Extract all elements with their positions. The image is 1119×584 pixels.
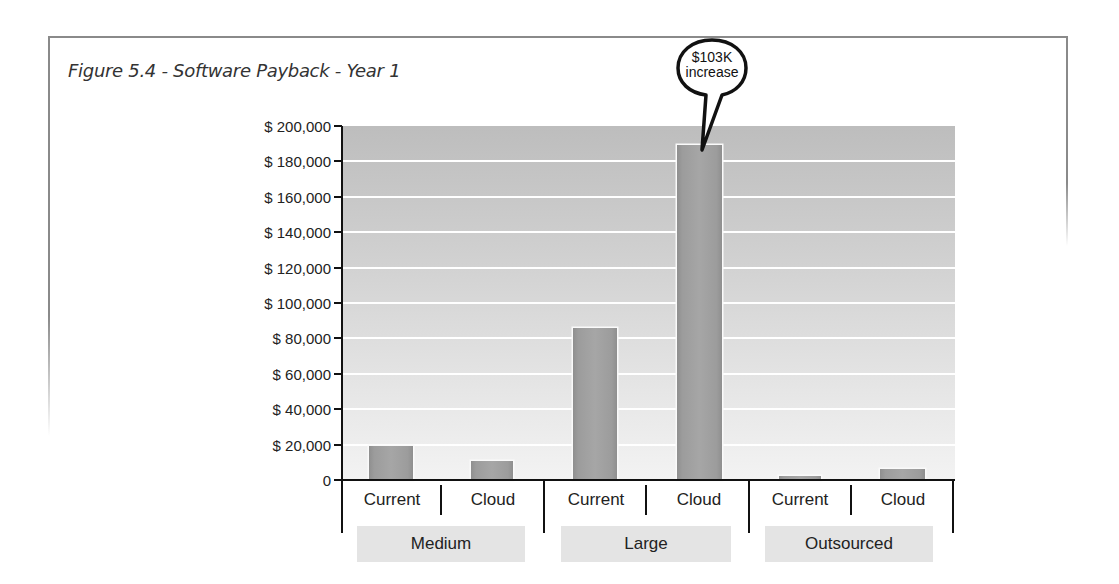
x-category-separator <box>850 485 852 515</box>
y-tick-label: $ 80,000 <box>273 330 331 347</box>
x-category-label: Current <box>551 490 641 510</box>
gridline <box>343 302 955 304</box>
y-tick-label: $ 20,000 <box>273 436 331 453</box>
y-tick-mark <box>334 302 342 304</box>
y-tick-mark <box>334 408 342 410</box>
y-tick-mark <box>334 267 342 269</box>
y-tick-mark <box>334 444 342 446</box>
gridline <box>343 267 955 269</box>
callout-line-2: increase <box>676 65 748 80</box>
x-group-label-outsourced: Outsourced <box>765 526 933 562</box>
y-tick-mark <box>334 373 342 375</box>
y-tick-label: $ 140,000 <box>264 224 331 241</box>
x-group-label-medium: Medium <box>357 526 525 562</box>
gridline <box>343 373 955 375</box>
gridline <box>343 408 955 410</box>
bar-medium-cloud <box>471 461 513 480</box>
x-axis-line <box>341 479 955 481</box>
y-tick-mark <box>334 160 342 162</box>
y-tick-label: $ 180,000 <box>264 153 331 170</box>
gridline <box>343 444 955 446</box>
frame-left-border <box>48 36 50 436</box>
x-group-label-large: Large <box>561 526 731 562</box>
x-category-label: Current <box>347 490 437 510</box>
y-tick-label: 0 <box>323 472 331 489</box>
bar-large-cloud <box>677 145 722 480</box>
y-tick-label: $ 40,000 <box>273 401 331 418</box>
gridline <box>343 231 955 233</box>
x-group-separator <box>748 481 750 533</box>
x-group-separator <box>341 481 343 533</box>
callout-line-1: $103K <box>676 50 748 65</box>
y-tick-label: $ 200,000 <box>264 118 331 135</box>
callout-text: $103K increase <box>676 50 748 80</box>
bar-large-current <box>573 328 617 480</box>
x-group-separator <box>543 481 545 533</box>
plot-area <box>343 126 955 480</box>
x-category-label: Cloud <box>654 490 744 510</box>
x-category-label: Current <box>755 490 845 510</box>
x-category-label: Cloud <box>448 490 538 510</box>
y-tick-mark <box>334 337 342 339</box>
y-tick-label: $ 160,000 <box>264 188 331 205</box>
bar-medium-current <box>369 446 413 480</box>
y-tick-label: $ 100,000 <box>264 295 331 312</box>
x-category-separator <box>645 485 647 515</box>
frame-top-border <box>48 36 1068 38</box>
x-group-separator <box>952 481 954 533</box>
y-axis-line <box>341 126 343 482</box>
y-tick-label: $ 60,000 <box>273 365 331 382</box>
frame-right-border <box>1066 36 1068 246</box>
gridline <box>343 160 955 162</box>
gridline <box>343 196 955 198</box>
y-tick-label: $ 120,000 <box>264 259 331 276</box>
y-tick-mark <box>334 196 342 198</box>
gridline <box>343 337 955 339</box>
figure-title: Figure 5.4 - Software Payback - Year 1 <box>68 60 400 81</box>
x-category-label: Cloud <box>858 490 948 510</box>
y-tick-mark <box>334 125 342 127</box>
y-tick-mark <box>334 231 342 233</box>
x-category-separator <box>440 485 442 515</box>
